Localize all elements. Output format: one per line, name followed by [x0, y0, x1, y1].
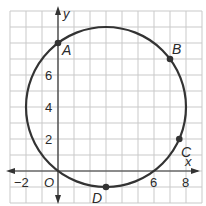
x-axis-arrow-icon	[191, 168, 200, 174]
point-d-dot	[103, 184, 110, 191]
x-tick-neg2: −2	[14, 175, 29, 190]
x-axis	[6, 168, 200, 174]
y-tick-2: 2	[45, 132, 52, 147]
point-a-dot	[55, 40, 62, 47]
origin-label: O	[44, 175, 54, 190]
graph-svg: x y O −2 6 8 2 4 6 A B C D	[0, 0, 206, 206]
x-tick-8: 8	[182, 175, 189, 190]
y-tick-4: 4	[45, 100, 52, 115]
point-label-b: B	[172, 41, 181, 57]
y-tick-6: 6	[45, 68, 52, 83]
y-axis	[55, 6, 61, 204]
x-tick-6: 6	[150, 175, 157, 190]
coordinate-plane-figure: x y O −2 6 8 2 4 6 A B C D	[0, 0, 206, 206]
point-label-a: A	[61, 42, 71, 58]
point-label-c: C	[181, 144, 192, 160]
point-label-d: D	[92, 190, 102, 206]
point-c-dot	[176, 136, 183, 143]
grid-lines	[10, 11, 202, 203]
y-axis-label: y	[62, 6, 71, 21]
